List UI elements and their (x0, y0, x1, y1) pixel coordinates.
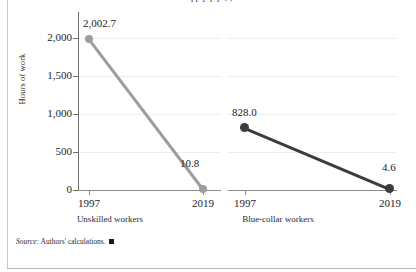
chart-figure: Hours of work 2,000 1,500 1,000 500 0 19… (0, 0, 416, 272)
y-axis-spine (78, 12, 79, 190)
y-tick-mark-500 (73, 152, 78, 153)
gridline-1000 (78, 114, 221, 115)
y-tick-labels: 2,000 1,500 1,000 500 0 (10, 0, 72, 200)
value-label-bluecollar-2019: 4.6 (382, 161, 396, 173)
x-tick-label-unskilled-2019: 2019 (183, 197, 223, 209)
y-tick-label-500: 500 (14, 146, 72, 157)
y-tick-label-1000: 1,000 (14, 108, 72, 119)
x-tick-label-bluecollar-2019: 2019 (370, 197, 410, 209)
end-of-note-square-icon (109, 239, 114, 244)
x-tick-mark-bluecollar-1997 (245, 191, 246, 195)
x-tick-label-bluecollar-1997: 1997 (225, 197, 265, 209)
gridline-500 (78, 152, 221, 153)
series-line-bluecollar (244, 127, 390, 191)
y-tick-mark-1000 (73, 114, 78, 115)
gridline-1500-right (228, 76, 397, 77)
x-axis-spine-bluecollar (228, 190, 397, 191)
data-point-bluecollar-1997[interactable] (240, 123, 249, 132)
gridline-500-right (228, 152, 397, 153)
data-point-bluecollar-2019[interactable] (385, 184, 394, 193)
data-point-unskilled-1997[interactable] (85, 35, 93, 43)
x-tick-label-unskilled-1997: 1997 (69, 197, 109, 209)
value-label-unskilled-1997: 2,002.7 (83, 17, 116, 29)
y-tick-label-0: 0 (14, 184, 72, 195)
y-tick-label-2000: 2,000 (14, 32, 72, 43)
data-point-unskilled-2019[interactable] (199, 185, 207, 193)
value-label-bluecollar-1997: 828.0 (232, 106, 257, 118)
panel-title-unskilled: Unskilled workers (50, 214, 170, 224)
gridline-1500 (78, 76, 221, 77)
value-label-unskilled-2019: 10.8 (180, 157, 199, 169)
y-tick-label-1500: 1,500 (14, 70, 72, 81)
source-label: Source: (16, 237, 39, 246)
x-tick-mark-unskilled-1997 (89, 191, 90, 195)
y-tick-mark-2000 (73, 38, 78, 39)
source-text: Authors' calculations. (41, 237, 106, 246)
panel-title-bluecollar: Blue-collar workers (218, 214, 338, 224)
gridline-2000-right (228, 38, 397, 39)
y-tick-mark-1500 (73, 76, 78, 77)
source-note: Source: Authors' calculations. (16, 237, 114, 247)
gridline-2000 (78, 38, 221, 39)
